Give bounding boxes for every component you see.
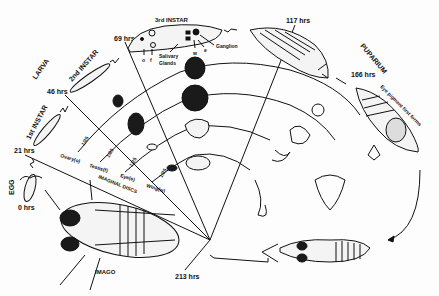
genital-disc-adult (315, 175, 345, 210)
radial-line-213hrs (185, 240, 210, 270)
molt-squiggle-1 (60, 106, 68, 112)
ovary-mature (368, 145, 380, 160)
arrow-adult-to-imago (210, 255, 268, 262)
wing-disc-late (186, 156, 210, 170)
testis-disc-late (182, 85, 208, 111)
time-label-166hrs: 166 hrs (351, 71, 376, 78)
ovary-disc-early (113, 95, 123, 107)
testis-adult (290, 126, 310, 144)
eye-disc-early (147, 144, 157, 150)
imago-label: IMAGO (95, 269, 116, 275)
disc-scale-ovary: 1/25 (80, 135, 90, 147)
pupa-illustration (356, 88, 418, 152)
molt-squiggle-2 (110, 58, 119, 63)
molt-squiggle-3 (224, 29, 237, 32)
ovary-disc-late (185, 57, 205, 79)
salivary-label-line1: Salivary (159, 53, 178, 59)
disc-label-ovary: Ovary(o) (60, 152, 82, 164)
disc-development-arrows (78, 63, 360, 182)
salivary-label-line2: Glands (159, 60, 176, 66)
time-label-213hrs: 213 hrs (175, 273, 200, 280)
disc-label-eye: Eye(e) (120, 172, 136, 182)
egg-label: EGG (8, 179, 15, 195)
time-label-46hrs: 46 hrs (47, 88, 68, 95)
ganglion-shape (193, 29, 199, 35)
time-label-0hrs: 0 hrs (18, 204, 35, 211)
time-label-117hrs: 117 hrs (286, 17, 310, 24)
label-o: o (142, 57, 145, 63)
ganglion-label: Ganglion (216, 43, 238, 49)
eye-disc-late (185, 119, 209, 138)
arrow-pupa-to-adult (388, 170, 420, 240)
drosophila-life-cycle-diagram: EGG 0 hrs 21 hrs 1st INSTAR LARVA 46 hrs… (0, 0, 439, 296)
time-label-21hrs: 21 hrs (14, 147, 35, 154)
wing-adult (255, 180, 266, 216)
diagram-canvas: EGG 0 hrs 21 hrs 1st INSTAR LARVA 46 hrs… (0, 0, 439, 296)
label-e: e (204, 47, 207, 53)
third-instar-label: 3rd INSTAR (155, 17, 189, 23)
wing-disc-early (167, 165, 177, 171)
ovary-adult (312, 104, 324, 116)
disc-label-wing: Wing(w) (146, 182, 167, 194)
larva-label: LARVA (31, 57, 50, 80)
testis-disc-early (128, 113, 144, 135)
eye-adult (272, 150, 290, 161)
label-f: f (150, 57, 152, 63)
emerging-adult-illustration (262, 240, 370, 262)
egg-illustration (20, 158, 42, 203)
disc-label-testis: Testis(f) (89, 162, 109, 173)
label-w: w (192, 50, 197, 56)
